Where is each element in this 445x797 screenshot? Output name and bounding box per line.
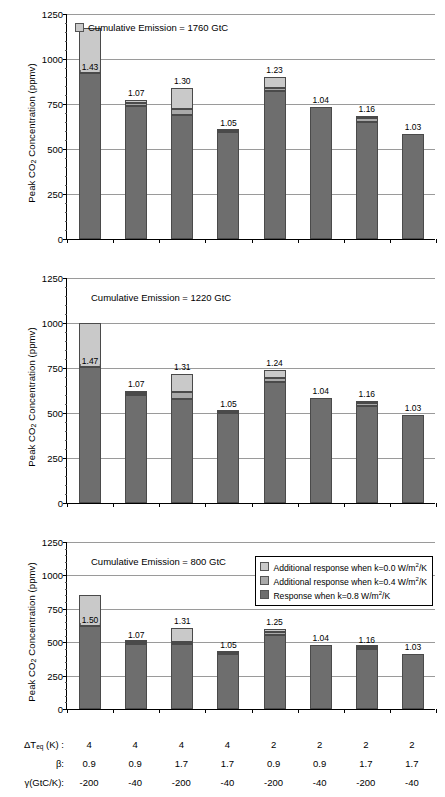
- stacked-bar[interactable]: 1.30: [171, 14, 193, 239]
- bar-value-label: 1.05: [220, 399, 237, 409]
- bar-value-label: 1.25: [266, 617, 283, 627]
- bar-segment: [171, 644, 193, 709]
- x-axis-tick: [436, 239, 437, 243]
- cumulative-emission-annotation: Cumulative Emission = 1220 GtC: [91, 292, 231, 303]
- annotation-text: Cumulative Emission = 800 GtC: [91, 556, 226, 567]
- stacked-bar[interactable]: 1.03: [402, 278, 424, 503]
- bar-segment: [171, 374, 193, 392]
- bar-segment: [264, 382, 286, 503]
- bar-value-label: 1.07: [128, 630, 145, 640]
- x-axis-tick: [252, 503, 253, 507]
- stacked-bar[interactable]: 1.50: [79, 542, 101, 709]
- stacked-bar[interactable]: 1.16: [356, 278, 378, 503]
- stacked-bar[interactable]: 1.05: [217, 278, 239, 503]
- x-axis-tick: [113, 503, 114, 507]
- parameter-value: 1.7: [221, 758, 234, 769]
- stacked-bar[interactable]: 1.31: [171, 278, 193, 503]
- x-axis-tick: [390, 503, 391, 507]
- bar-segment: [356, 406, 378, 503]
- parameter-table: ΔTeq (K) :44442222β:0.90.91.71.70.90.91.…: [0, 737, 445, 794]
- bar-segment: [125, 106, 147, 239]
- legend-swatch-icon: [260, 562, 269, 571]
- plot-area: 0250500750100012501.501.071.311.051.251.…: [66, 542, 435, 710]
- chart-panel-1760: Peak CO2 Concentration (ppmv) 0250500750…: [0, 4, 445, 262]
- chart-panel-1220: Peak CO2 Concentration (ppmv) 0250500750…: [0, 268, 445, 526]
- x-axis-tick: [390, 239, 391, 243]
- stacked-bar[interactable]: 1.04: [310, 278, 332, 503]
- y-axis-tick-label: 1000: [42, 54, 63, 65]
- stacked-bar[interactable]: 1.43: [79, 14, 101, 239]
- parameter-value: 0.9: [267, 758, 280, 769]
- y-axis-tick-label: 250: [47, 453, 63, 464]
- bar-segment: [79, 367, 101, 503]
- stacked-bar[interactable]: 1.03: [402, 14, 424, 239]
- x-axis-tick: [159, 709, 160, 713]
- y-axis-title: Peak CO2 Concentration (ppmv): [26, 307, 37, 487]
- bar-value-label: 1.30: [174, 76, 191, 86]
- plot-area: 0250500750100012501.431.071.301.051.231.…: [66, 14, 435, 240]
- parameter-value: 2: [271, 739, 276, 750]
- parameter-value: -40: [405, 777, 419, 788]
- y-axis-tick-label: 500: [47, 408, 63, 419]
- parameter-value: 2: [409, 739, 414, 750]
- y-axis-tick-label: 250: [47, 670, 63, 681]
- stacked-bar[interactable]: 1.07: [125, 278, 147, 503]
- bar-value-label: 1.04: [312, 95, 329, 105]
- bar-segment: [217, 129, 239, 131]
- parameter-value: 0.9: [129, 758, 142, 769]
- legend-label: Response when k=0.8 W/m2/K: [273, 588, 390, 602]
- x-axis-tick: [298, 709, 299, 713]
- stacked-bar[interactable]: 1.16: [356, 14, 378, 239]
- parameter-value: 2: [363, 739, 368, 750]
- legend: Additional response when k=0.0 W/m2/KAdd…: [255, 556, 433, 606]
- stacked-bar[interactable]: 1.07: [125, 542, 147, 709]
- bar-value-label: 1.03: [405, 642, 422, 652]
- legend-item[interactable]: Response when k=0.8 W/m2/K: [260, 588, 427, 602]
- stacked-bar[interactable]: 1.05: [217, 14, 239, 239]
- bar-segment: [356, 122, 378, 239]
- legend-item[interactable]: Additional response when k=0.4 W/m2/K: [260, 574, 427, 588]
- parameter-row-label: γ(GtC/K):: [24, 777, 64, 788]
- stacked-bar[interactable]: 1.07: [125, 14, 147, 239]
- bar-segment: [356, 116, 378, 119]
- bar-segment: [264, 77, 286, 88]
- y-axis-tick-label: 500: [47, 637, 63, 648]
- legend-swatch-icon: [260, 590, 269, 599]
- stacked-bar[interactable]: 1.23: [264, 14, 286, 239]
- bar-segment: [402, 415, 424, 503]
- y-axis-tick-label: 1250: [42, 9, 63, 20]
- bar-value-label: 1.31: [174, 362, 191, 372]
- parameter-value: -200: [264, 777, 283, 788]
- stacked-bar[interactable]: 1.05: [217, 542, 239, 709]
- bar-segment: [217, 413, 239, 503]
- legend-item[interactable]: Additional response when k=0.0 W/m2/K: [260, 560, 427, 574]
- stacked-bar[interactable]: 1.04: [310, 14, 332, 239]
- parameter-value: -40: [221, 777, 235, 788]
- x-axis-tick: [113, 239, 114, 243]
- bar-segment: [264, 632, 286, 635]
- bar-segment: [217, 654, 239, 709]
- stacked-bar[interactable]: 1.31: [171, 542, 193, 709]
- y-axis-tick-label: 1250: [42, 537, 63, 548]
- legend-label: Additional response when k=0.0 W/m2/K: [273, 560, 427, 574]
- bar-value-label: 1.03: [405, 403, 422, 413]
- bar-value-label: 1.05: [220, 640, 237, 650]
- x-axis-tick: [67, 709, 68, 713]
- stacked-bar[interactable]: 1.47: [79, 278, 101, 503]
- x-axis-tick: [252, 239, 253, 243]
- stacked-bar[interactable]: 1.24: [264, 278, 286, 503]
- x-axis-tick: [298, 503, 299, 507]
- bar-segment: [125, 640, 147, 642]
- bar-segment: [171, 628, 193, 642]
- annotation-swatch-icon: [75, 23, 84, 32]
- x-axis-tick: [205, 239, 206, 243]
- parameter-row: β:0.90.91.71.70.90.91.71.7: [0, 756, 445, 775]
- bar-value-label: 1.04: [312, 633, 329, 643]
- parameter-value: 4: [133, 739, 138, 750]
- bar-segment: [264, 88, 286, 91]
- bar-segment: [264, 91, 286, 240]
- bar-segment: [310, 107, 332, 239]
- x-axis-tick: [436, 503, 437, 507]
- annotation-text: Cumulative Emission = 1760 GtC: [88, 22, 228, 33]
- bar-segment: [125, 644, 147, 709]
